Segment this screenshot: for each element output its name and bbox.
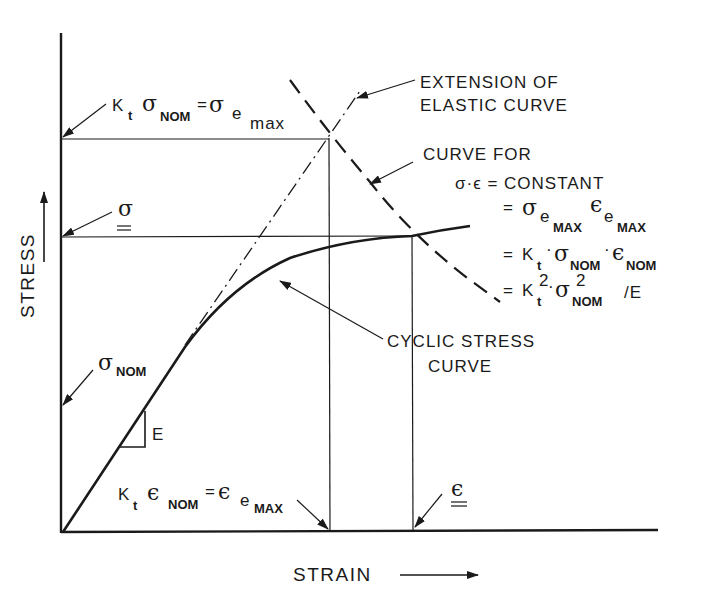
equation-line-4: = K t 2 · σ 2 NOM /E	[503, 271, 642, 309]
svg-text:=: =	[197, 95, 208, 114]
eps-emax-drop-line	[329, 138, 330, 531]
svg-text:K: K	[522, 245, 534, 264]
equation-line-3: = K t · σ NOM · ϵ NOM	[503, 240, 656, 273]
svg-text:NOM: NOM	[626, 258, 656, 273]
sigma-nom-arrow-icon	[63, 370, 93, 405]
svg-text:/E: /E	[624, 283, 642, 302]
svg-text:σ: σ	[555, 277, 570, 302]
slope-e-label: E	[152, 425, 164, 444]
y-axis-label: STRESS	[17, 233, 38, 318]
sigma-bar-label: σ	[118, 196, 133, 221]
svg-text:e: e	[540, 207, 550, 226]
kt-sigma-label: K t σ NOM = σ e max	[112, 91, 285, 133]
svg-text:K: K	[118, 485, 130, 504]
svg-text:2: 2	[576, 271, 586, 290]
svg-text:t: t	[128, 108, 133, 123]
svg-text:·: ·	[548, 277, 555, 296]
svg-text:σ: σ	[209, 92, 224, 117]
svg-text:ϵ: ϵ	[218, 479, 230, 504]
svg-text:σ: σ	[142, 91, 157, 116]
svg-text:NOM: NOM	[168, 497, 198, 512]
svg-text:NOM: NOM	[160, 109, 190, 124]
extension-label-line1: EXTENSION OF	[420, 73, 559, 92]
cyclic-arrow-icon	[280, 281, 383, 339]
svg-text:e: e	[240, 491, 250, 510]
svg-text:=: =	[503, 281, 514, 300]
svg-text:max: max	[250, 114, 285, 133]
svg-text:σ: σ	[522, 195, 537, 220]
svg-text:=: =	[503, 245, 514, 264]
svg-text:t: t	[133, 498, 138, 513]
svg-text:ϵ: ϵ	[147, 480, 159, 505]
svg-text:e: e	[604, 207, 614, 226]
eps-bar-drop-line	[412, 236, 413, 530]
kt-eps-label: K t ϵ NOM = ϵ e MAX	[118, 479, 283, 516]
extension-arrow-icon	[357, 80, 415, 98]
sigma-bar-level-line	[61, 236, 412, 237]
curve-for-arrow-icon	[370, 162, 413, 184]
svg-text:e: e	[232, 104, 242, 123]
neuber-diagram: STRESS STRAIN K t σ NOM = σ e max EXTENS…	[0, 0, 714, 605]
svg-text:MAX: MAX	[553, 220, 582, 235]
svg-text:MAX: MAX	[617, 220, 646, 235]
curve-for-label: CURVE FOR	[423, 145, 532, 164]
svg-text:MAX: MAX	[254, 501, 283, 516]
extension-label-line2: ELASTIC CURVE	[420, 96, 568, 115]
sigma-bar-arrow-icon	[63, 212, 112, 236]
svg-text:ϵ: ϵ	[612, 240, 624, 265]
kt-sigma-arrow-icon	[63, 104, 106, 137]
constant-equation: σ·ϵ = CONSTANT	[455, 174, 604, 193]
eps-bar-arrow-icon	[415, 494, 442, 527]
svg-text:K: K	[522, 281, 534, 300]
eps-bar-label: ϵ	[451, 476, 463, 501]
x-axis-label: STRAIN	[293, 564, 372, 585]
kt-eps-arrow-icon	[297, 500, 328, 529]
sigma-nom-label: σ	[98, 350, 113, 375]
svg-text:=: =	[503, 198, 514, 217]
equation-line-2: = σ e MAX ϵ e MAX	[503, 192, 646, 235]
svg-text:ϵ: ϵ	[590, 192, 602, 217]
sigma-nom-subscript: NOM	[116, 364, 146, 379]
svg-text:σ: σ	[554, 241, 569, 266]
cyclic-label-line2: CURVE	[428, 357, 492, 376]
svg-text:·: ·	[546, 240, 553, 259]
cyclic-label-line1: CYCLIC STRESS	[387, 332, 535, 351]
x-axis	[61, 530, 658, 532]
svg-text:=: =	[205, 482, 216, 501]
svg-text:t: t	[537, 294, 542, 309]
svg-text:·: ·	[604, 240, 611, 259]
svg-text:K: K	[112, 96, 124, 115]
svg-text:NOM: NOM	[572, 294, 602, 309]
